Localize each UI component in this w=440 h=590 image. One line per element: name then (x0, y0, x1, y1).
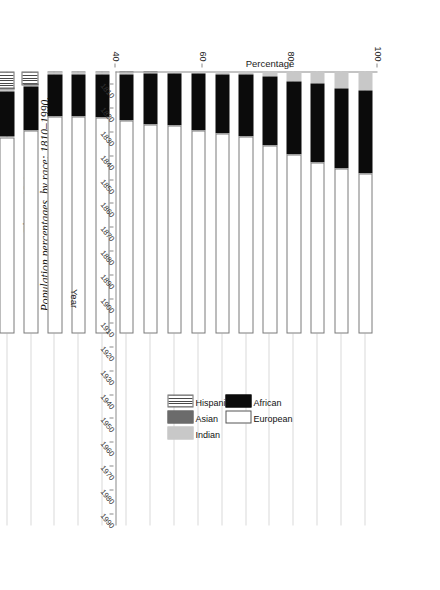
bar-segment-african (215, 74, 229, 133)
bar-segment-european (215, 133, 229, 333)
bar-segment-african (167, 73, 181, 125)
x-tick (109, 83, 113, 84)
bar-1950[interactable] (23, 72, 37, 526)
chart: 100806040 Percentage AfricanEuropeanHisp… (55, 28, 385, 563)
x-tick (109, 107, 113, 108)
x-axis-line (115, 72, 116, 526)
bar-segment-african (23, 86, 37, 130)
bar-segment-european (358, 173, 372, 333)
x-axis-title: Year (68, 72, 79, 526)
x-tick (109, 394, 113, 395)
x-tick (109, 514, 113, 515)
x-tick (109, 466, 113, 467)
bar-segment-european (143, 124, 157, 333)
legend-label-indian: Indian (195, 429, 220, 439)
bar-segment-african (238, 75, 252, 137)
bar-1820[interactable] (334, 72, 348, 526)
legend-entry-asian[interactable]: Asian (167, 410, 193, 423)
legend-swatch-asian (167, 410, 193, 423)
y-tick-label: 40 (110, 51, 120, 61)
bar-segment-european (191, 131, 205, 334)
legend-entry-european[interactable]: European (225, 410, 251, 423)
bar-segment-european (119, 121, 133, 334)
y-tick (376, 64, 377, 68)
bar-segment-european (23, 130, 37, 333)
x-tick (109, 275, 113, 276)
x-tick (109, 346, 113, 347)
bar-segment-european (310, 163, 324, 334)
bar-segment-european (334, 168, 348, 333)
x-tick (109, 203, 113, 204)
legend-label-african: African (253, 397, 281, 407)
legend-entry-indian[interactable]: Indian (167, 426, 193, 439)
legend-label-asian: Asian (195, 413, 218, 423)
x-tick (109, 370, 113, 371)
bar-1940[interactable] (47, 72, 61, 526)
bar-1960[interactable] (0, 72, 14, 526)
bar-segment-indian (334, 72, 348, 89)
legend-label-european: European (253, 413, 292, 423)
bar-segment-european (286, 154, 300, 333)
x-tick (109, 251, 113, 252)
bar-segment-african (334, 88, 348, 168)
bar-1830[interactable] (310, 72, 324, 526)
x-tick (109, 227, 113, 228)
bar-1910[interactable] (119, 72, 133, 526)
y-axis-title: Percentage (230, 58, 310, 69)
y-tick (114, 64, 115, 68)
bar-segment-indian (310, 72, 324, 84)
bar-segment-african (191, 74, 205, 131)
x-tick (109, 155, 113, 156)
legend-swatch-hispanic (167, 394, 193, 407)
bar-segment-african (358, 90, 372, 173)
bar-segment-indian (286, 72, 300, 82)
x-tick (109, 442, 113, 443)
bar-segment-african (47, 74, 61, 117)
x-tick (109, 490, 113, 491)
legend-label-hispanic: Hispanic (195, 397, 230, 407)
bar-segment-african (310, 84, 324, 163)
x-tick (109, 418, 113, 419)
x-tick (109, 322, 113, 323)
legend-entry-hispanic[interactable]: Hispanic (167, 394, 193, 407)
x-tick (109, 299, 113, 300)
y-tick-label: 100 (372, 46, 382, 61)
plot-area: AfricanEuropeanHispanicAsianIndian (115, 72, 377, 526)
bar-segment-european (47, 117, 61, 334)
x-tick (109, 179, 113, 180)
legend: AfricanEuropeanHispanicAsianIndian (161, 394, 281, 514)
bar-segment-african (119, 74, 133, 121)
bar-1900[interactable] (143, 72, 157, 526)
x-tick (109, 131, 113, 132)
bar-segment-african (286, 81, 300, 154)
figure-page: Figure 12.1 Population percentages, by r… (0, 0, 440, 590)
bar-segment-african (262, 77, 276, 146)
bar-segment-indian (358, 72, 372, 91)
bar-1810[interactable] (358, 72, 372, 526)
bar-segment-african (0, 91, 14, 137)
bar-segment-african (143, 74, 157, 125)
legend-swatch-indian (167, 426, 193, 439)
bar-segment-european (238, 137, 252, 334)
bar-segment-european (0, 137, 14, 334)
legend-swatch-european (225, 410, 251, 423)
bar-segment-european (262, 145, 276, 333)
bar-segment-european (167, 125, 181, 333)
bar-1840[interactable] (286, 72, 300, 526)
y-tick-label: 60 (197, 51, 207, 61)
y-tick (201, 64, 202, 68)
